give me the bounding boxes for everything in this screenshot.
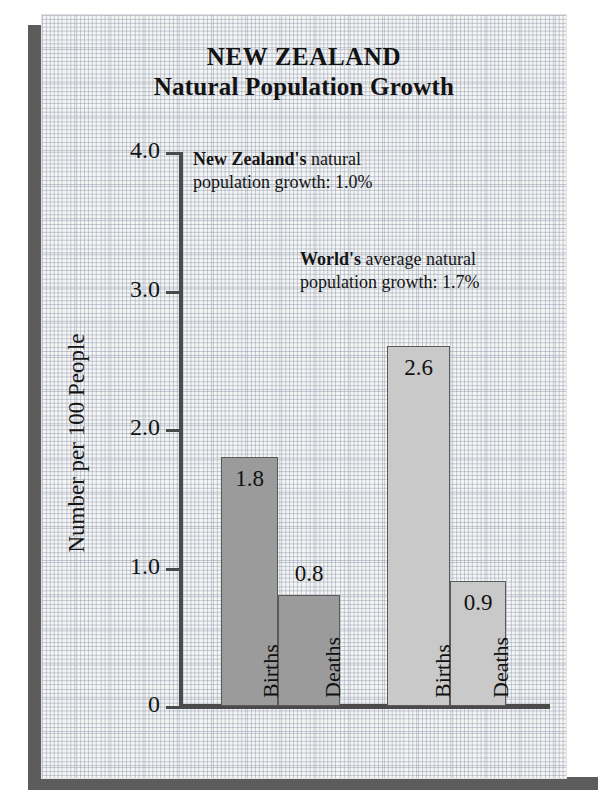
bar-value-newzealand-deaths: 0.8 [278,561,340,587]
title-line-country: NEW ZEALAND [41,42,567,72]
y-tick-1 [166,568,180,571]
y-tick-4 [166,152,180,155]
annotation-world-rest: average natural [361,249,476,269]
y-tick-label-2: 2.0 [96,414,160,441]
y-tick-label-0: 0 [96,691,160,718]
chart-page: NEW ZEALAND Natural Population Growth Ne… [0,0,610,799]
bar-category-world-deaths: Deaths [488,637,514,698]
page-title: NEW ZEALAND Natural Population Growth [41,42,567,101]
y-axis-title: Number per 100 People [64,303,90,583]
annotation-new-zealand-line1: New Zealand's natural [193,148,443,171]
annotation-world-bold: World's [300,249,361,269]
bar-value-newzealand-births: 1.8 [221,466,278,492]
annotation-new-zealand-line2: population growth: 1.0% [193,171,443,194]
bar-value-world-deaths: 0.9 [450,590,506,616]
annotation-world-line1: World's average natural [300,248,570,271]
y-tick-3 [166,291,180,294]
annotation-new-zealand: New Zealand's natural population growth:… [193,148,443,194]
frame-shadow-left [28,25,41,790]
y-tick-0 [166,706,180,709]
annotation-world-line2: population growth: 1.7% [300,271,570,294]
y-tick-label-1: 1.0 [96,553,160,580]
bar-value-world-births: 2.6 [387,355,450,381]
title-line-subject: Natural Population Growth [41,72,567,102]
y-tick-2 [166,429,180,432]
y-tick-label-4: 4.0 [96,137,160,164]
annotation-world: World's average natural population growt… [300,248,570,294]
bar-category-newzealand-deaths: Deaths [320,637,346,698]
y-tick-label-3: 3.0 [96,276,160,303]
annotation-new-zealand-rest: natural [307,149,361,169]
annotation-new-zealand-bold: New Zealand's [193,149,307,169]
